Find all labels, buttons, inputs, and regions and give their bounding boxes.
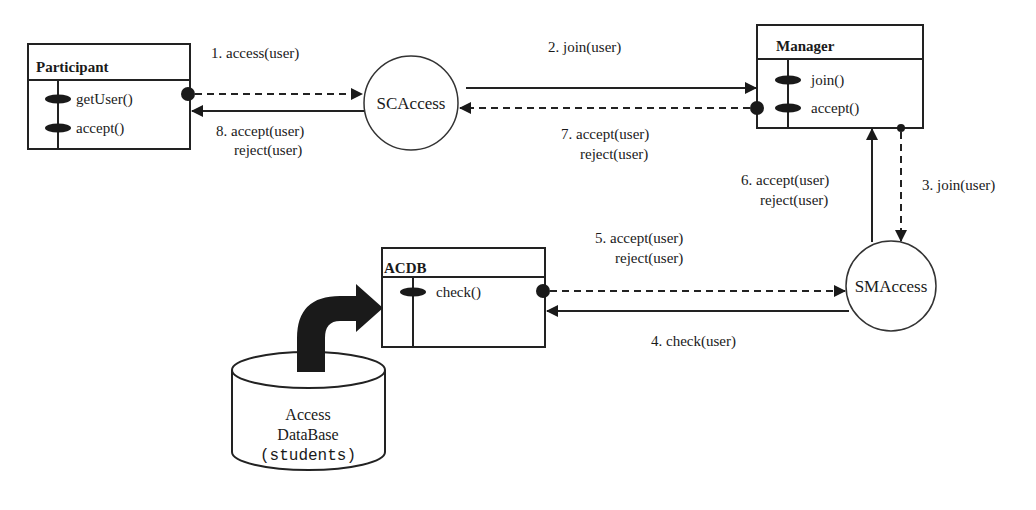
method-bullet-icon xyxy=(45,124,71,133)
message-8-label-line1: 8. accept(user) xyxy=(216,123,304,140)
database-label-line1: Access xyxy=(285,406,330,423)
port-dot-icon xyxy=(750,101,764,115)
message-7-label-line1: 7. accept(user) xyxy=(561,126,649,143)
message-6-label-line1: 6. accept(user) xyxy=(741,172,829,189)
acdb-class: ACDB check() xyxy=(382,248,550,347)
message-5-label-line1: 5. accept(user) xyxy=(595,230,683,247)
method-bullet-icon xyxy=(45,95,71,104)
message-7-label-line2: reject(user) xyxy=(580,146,648,163)
message-8-label-line2: reject(user) xyxy=(234,142,302,159)
manager-method-accept: accept() xyxy=(811,100,859,117)
method-bullet-icon xyxy=(775,104,801,113)
participant-method-accept: accept() xyxy=(76,120,124,137)
manager-title: Manager xyxy=(776,38,835,54)
message-6-label-line2: reject(user) xyxy=(760,192,828,209)
port-dot-icon xyxy=(536,284,550,298)
smaccess-label: SMAccess xyxy=(855,277,928,296)
acdb-method-check: check() xyxy=(436,284,481,301)
message-4-label: 4. check(user) xyxy=(651,333,736,350)
participant-title: Participant xyxy=(36,59,109,75)
smaccess-node: SMAccess xyxy=(846,241,936,331)
port-dot-icon xyxy=(181,87,195,101)
message-2-label: 2. join(user) xyxy=(548,39,621,56)
message-1-label: 1. access(user) xyxy=(211,45,299,62)
collaboration-diagram: Participant getUser() accept() Manager j… xyxy=(0,0,1036,510)
port-dot-icon xyxy=(897,124,905,132)
manager-method-join: join() xyxy=(810,72,844,89)
database-label-line2: DataBase xyxy=(277,426,338,443)
method-bullet-icon xyxy=(400,288,426,297)
method-bullet-icon xyxy=(775,76,801,85)
scaccess-label: SCAccess xyxy=(377,94,446,113)
acdb-title: ACDB xyxy=(384,260,427,276)
participant-method-getuser: getUser() xyxy=(76,91,133,108)
manager-class: Manager join() accept() xyxy=(750,25,923,132)
message-5-label-line2: reject(user) xyxy=(615,250,683,267)
database-label-line3: (students) xyxy=(260,447,356,465)
participant-class: Participant getUser() accept() xyxy=(28,44,195,149)
message-3-label: 3. join(user) xyxy=(922,177,995,194)
scaccess-node: SCAccess xyxy=(364,56,458,150)
